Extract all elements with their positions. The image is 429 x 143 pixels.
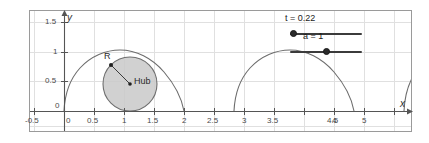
y-tick-label: 0.5 <box>45 77 56 85</box>
slider-t-track[interactable] <box>290 33 362 35</box>
cycloid-curve-arch2 <box>234 50 354 111</box>
slider-a-knob[interactable] <box>323 48 330 55</box>
hub-point[interactable] <box>128 82 132 86</box>
point-r[interactable] <box>109 63 113 67</box>
x-tick-label: 2.5 <box>207 117 218 125</box>
applet-canvas: -0.5 0 0.5 1 1.5 2 2.5 3 3.5 4 4.5 4.5 5… <box>0 0 429 143</box>
slider-t[interactable] <box>290 29 362 39</box>
x-tick-label: -0.5 <box>25 117 39 125</box>
x-tick-label: 1.5 <box>147 117 158 125</box>
x-tick-label: 4.5 <box>327 117 338 125</box>
point-r-label: R <box>104 52 111 60</box>
slider-t-knob[interactable] <box>290 30 297 37</box>
y-tick-label: 0 <box>55 102 59 110</box>
x-tick-label: 0 <box>66 117 70 125</box>
x-tick-label: 3 <box>242 117 246 125</box>
slider-a[interactable] <box>290 47 362 57</box>
x-axis-label: x <box>400 100 405 108</box>
slider-a-label: a = 1 <box>303 32 323 40</box>
point-hub-label: Hub <box>134 77 151 85</box>
x-tick-label: 5 <box>362 117 366 125</box>
x-tick-label: 3.5 <box>267 117 278 125</box>
x-axis-arrow-icon <box>407 109 413 115</box>
x-tick-label: 2 <box>182 117 186 125</box>
y-axis-label: y <box>67 14 72 22</box>
x-tick-label: 0.5 <box>87 117 98 125</box>
x-tick-label: 1 <box>122 117 126 125</box>
slider-t-label: t = 0.22 <box>285 14 315 22</box>
cycloid-curve-arch3 <box>404 69 418 111</box>
y-tick-label: 1 <box>53 48 57 56</box>
y-tick-label: 1.5 <box>45 18 56 26</box>
